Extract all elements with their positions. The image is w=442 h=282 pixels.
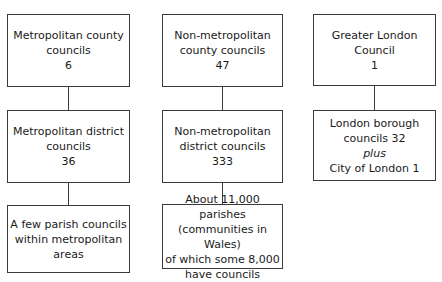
connector-line — [374, 86, 375, 110]
box-text: county councils — [180, 43, 266, 58]
box-text: within metropolitan — [15, 232, 123, 247]
box-text: Council — [354, 43, 395, 58]
box-text: Non-metropolitan — [174, 28, 271, 43]
box-count: 1 — [371, 58, 378, 73]
box-text: councils — [46, 139, 91, 154]
box-text: Metropolitan district — [13, 124, 124, 139]
london-borough-councils-box: London borough councils 32 plus City of … — [313, 110, 436, 181]
box-count: 47 — [216, 58, 230, 73]
connector-line — [68, 183, 69, 205]
connector-line — [222, 87, 223, 110]
box-text: Metropolitan county — [13, 28, 123, 43]
box-text-italic: plus — [363, 146, 386, 161]
box-text: councils 32 — [343, 131, 405, 146]
box-text: areas — [53, 247, 83, 262]
box-count: 6 — [65, 58, 72, 73]
box-text: of which some 8,000 — [165, 252, 280, 267]
metropolitan-parish-councils-box: A few parish councils within metropolita… — [7, 205, 130, 273]
box-text: Greater London — [332, 28, 418, 43]
box-text: councils — [46, 43, 91, 58]
box-text: Non-metropolitan — [174, 124, 271, 139]
metropolitan-district-councils-box: Metropolitan district councils 36 — [7, 110, 130, 183]
metropolitan-county-councils-box: Metropolitan county councils 6 — [7, 14, 130, 87]
box-text: district councils — [179, 139, 265, 154]
box-text: (communities in Wales) — [163, 222, 282, 252]
parishes-box: About 11,000 parishes (communities in Wa… — [162, 204, 283, 269]
box-count: 333 — [212, 154, 233, 169]
box-text: City of London 1 — [330, 161, 420, 176]
box-count: 36 — [62, 154, 76, 169]
greater-london-council-box: Greater London Council 1 — [313, 14, 436, 86]
box-text: About 11,000 parishes — [163, 192, 282, 222]
non-metropolitan-district-councils-box: Non-metropolitan district councils 333 — [162, 110, 283, 183]
box-text: have councils — [185, 267, 260, 282]
non-metropolitan-county-councils-box: Non-metropolitan county councils 47 — [162, 14, 283, 87]
box-text: A few parish councils — [10, 217, 126, 232]
box-text: London borough — [330, 116, 419, 131]
connector-line — [68, 87, 69, 110]
